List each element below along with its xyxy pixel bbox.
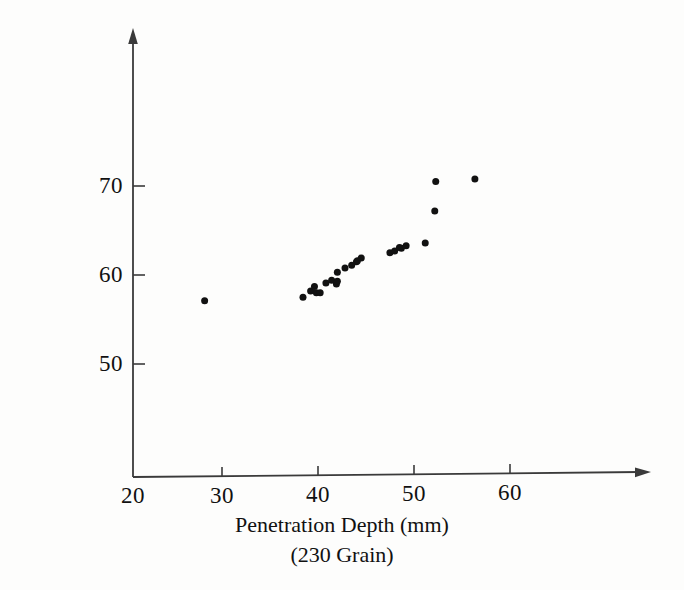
x-axis-title-line2: (230 Grain): [0, 540, 684, 570]
data-point: [422, 239, 429, 246]
x-tick-label-50: 50: [402, 481, 426, 507]
data-point: [358, 255, 365, 262]
x-axis-line: [133, 472, 640, 477]
x-axis-arrow-icon: [635, 468, 651, 478]
y-tick-label-70: 70: [93, 173, 123, 199]
x-tick-label-20: 20: [121, 483, 145, 509]
y-tick-label-50: 50: [93, 351, 123, 377]
x-tick-label-40: 40: [306, 482, 330, 508]
data-points-layer: [201, 175, 478, 304]
scatter-plot-figure: 20 30 40 50 60 50 60 70 Penetration Dept…: [0, 0, 684, 590]
data-point: [403, 242, 410, 249]
data-point: [201, 297, 208, 304]
data-point: [334, 269, 341, 276]
data-point: [342, 264, 349, 271]
data-point: [334, 278, 341, 285]
data-point: [299, 294, 306, 301]
data-point: [311, 283, 318, 290]
x-tick-label-60: 60: [498, 480, 522, 506]
x-axis-title: Penetration Depth (mm) (230 Grain): [0, 510, 684, 570]
y-tick-label-60: 60: [93, 262, 123, 288]
data-point: [431, 207, 438, 214]
y-axis-arrow-icon: [128, 28, 138, 44]
data-point: [317, 289, 324, 296]
data-point: [396, 244, 403, 251]
y-tick-marks: [133, 186, 145, 364]
data-point: [432, 178, 439, 185]
data-point: [471, 175, 478, 182]
x-tick-label-30: 30: [210, 483, 234, 509]
x-axis-title-line1: Penetration Depth (mm): [235, 512, 449, 537]
plot-canvas: [0, 0, 684, 590]
